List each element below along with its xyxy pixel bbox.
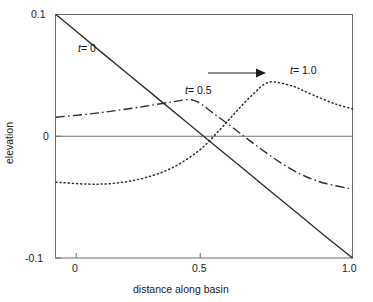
series-label-t10-value: = 1.0 [293, 64, 317, 76]
y-tick-label-bottom: -0.1 [25, 252, 43, 264]
x-tick-marks [76, 253, 352, 258]
series-label-t05-value: = 0.5 [188, 84, 212, 96]
x-tick-label-1-0: 1.0 [342, 262, 357, 274]
series-label-t05: t= 0.5 [185, 84, 212, 96]
migration-arrow-annotation [208, 69, 266, 78]
x-tick-label-0: 0 [72, 262, 78, 274]
y-tick-label-zero: 0 [43, 130, 49, 142]
series-line-2 [56, 82, 353, 184]
chart-figure: 0.1 0 -0.1 0 0.5 1.0 elevation distance … [0, 0, 373, 302]
x-axis-title: distance along basin [133, 283, 229, 295]
series-label-t10: t= 1.0 [290, 64, 317, 76]
series-label-t0: t= 0 [78, 42, 96, 54]
series-label-t0-value: = 0 [81, 42, 96, 54]
chart-canvas [0, 0, 373, 302]
y-axis-title: elevation [3, 113, 15, 173]
y-tick-marks [56, 15, 61, 259]
x-tick-label-0-5: 0.5 [192, 262, 207, 274]
series-line-1 [56, 100, 353, 189]
y-tick-label-top: 0.1 [31, 8, 46, 20]
